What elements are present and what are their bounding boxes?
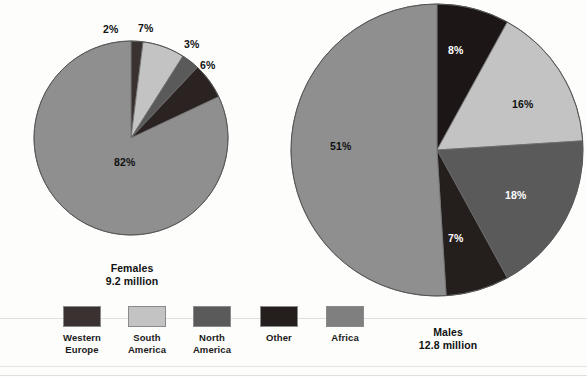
slice-value-label: 3% — [184, 39, 200, 50]
legend-swatch-western-europe — [63, 306, 101, 327]
slice-value-label: 8% — [448, 45, 464, 56]
pie-caption-females: Females 9.2 million — [62, 262, 202, 288]
legend-label-north-america: North America — [180, 332, 244, 355]
legend-item-africa[interactable]: Africa — [313, 306, 377, 344]
slice-value-label: 7% — [448, 233, 464, 244]
slice-value-label: 51% — [330, 141, 352, 152]
slice-value-label: 6% — [200, 60, 216, 71]
legend-label-south-america: South America — [115, 332, 179, 355]
chart-legend: Western EuropeSouth AmericaNorth America… — [0, 306, 587, 364]
slice-value-label: 2% — [103, 24, 119, 35]
figure-canvas: Females 9.2 million Males 12.8 million 2… — [0, 0, 587, 378]
legend-item-other[interactable]: Other — [247, 306, 311, 344]
legend-swatch-south-america — [128, 306, 166, 327]
legend-item-south-america[interactable]: South America — [115, 306, 179, 355]
legend-item-north-america[interactable]: North America — [180, 306, 244, 355]
legend-item-western-europe[interactable]: Western Europe — [50, 306, 114, 355]
slice-value-label: 7% — [138, 23, 154, 34]
slice-value-label: 82% — [114, 157, 136, 168]
legend-swatch-africa — [326, 306, 364, 327]
slice-value-label: 18% — [505, 190, 527, 201]
legend-swatch-other — [260, 306, 298, 327]
pie-slice-africa — [291, 4, 446, 296]
legend-swatch-north-america — [193, 306, 231, 327]
slice-value-label: 16% — [512, 99, 534, 110]
legend-label-africa: Africa — [313, 332, 377, 344]
legend-label-other: Other — [247, 332, 311, 344]
legend-label-western-europe: Western Europe — [50, 332, 114, 355]
scan-line — [0, 366, 587, 367]
scan-line — [0, 375, 587, 376]
